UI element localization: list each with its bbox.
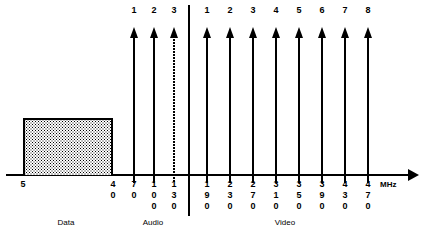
carrier-stem	[229, 36, 231, 183]
carrier-frequency-label: 390	[312, 179, 332, 212]
carrier-index-label: 2	[145, 5, 163, 15]
carrier-index-label: 4	[267, 5, 285, 15]
carrier-frequency-label: 310	[266, 179, 286, 212]
carrier-stem	[367, 36, 369, 183]
carrier-stem	[252, 36, 254, 183]
carrier-frequency-label: 470	[358, 179, 378, 212]
section-caption-video: Video	[255, 218, 315, 227]
carrier-stem	[206, 36, 208, 183]
carrier-stem	[321, 36, 323, 183]
carrier-index-label: 3	[244, 5, 262, 15]
carrier-frequency-label: 230	[220, 179, 240, 212]
carrier-frequency-label: 130	[164, 179, 184, 212]
audio-video-divider	[188, 5, 190, 216]
section-caption-audio: Audio	[123, 218, 183, 227]
carrier-stem	[275, 36, 277, 183]
carrier-stem	[298, 36, 300, 183]
band-edge-label: 40	[103, 179, 123, 201]
carrier-index-label: 1	[198, 5, 216, 15]
carrier-stem	[344, 36, 346, 183]
carrier-index-label: 8	[359, 5, 377, 15]
frequency-axis-unit-label: MHz	[380, 180, 396, 189]
data-band-block	[23, 118, 113, 175]
carrier-frequency-label: 430	[335, 179, 355, 212]
carrier-index-label: 5	[290, 5, 308, 15]
carrier-stem	[153, 36, 155, 183]
carrier-frequency-label: 190	[197, 179, 217, 212]
frequency-spectrum-diagram: MHz 540 17021003130119022303270431053506…	[0, 0, 424, 235]
carrier-frequency-label: 270	[243, 179, 263, 212]
carrier-frequency-label: 70	[124, 179, 144, 201]
frequency-axis-arrowhead-icon	[408, 169, 419, 181]
carrier-stem	[173, 36, 175, 183]
carrier-frequency-label: 100	[144, 179, 164, 212]
carrier-frequency-label: 350	[289, 179, 309, 212]
section-caption-data: Data	[36, 218, 96, 227]
carrier-index-label: 1	[125, 5, 143, 15]
carrier-stem	[133, 36, 135, 183]
carrier-index-label: 2	[221, 5, 239, 15]
carrier-index-label: 3	[165, 5, 183, 15]
band-edge-label: 5	[13, 179, 33, 190]
carrier-index-label: 6	[313, 5, 331, 15]
carrier-index-label: 7	[336, 5, 354, 15]
